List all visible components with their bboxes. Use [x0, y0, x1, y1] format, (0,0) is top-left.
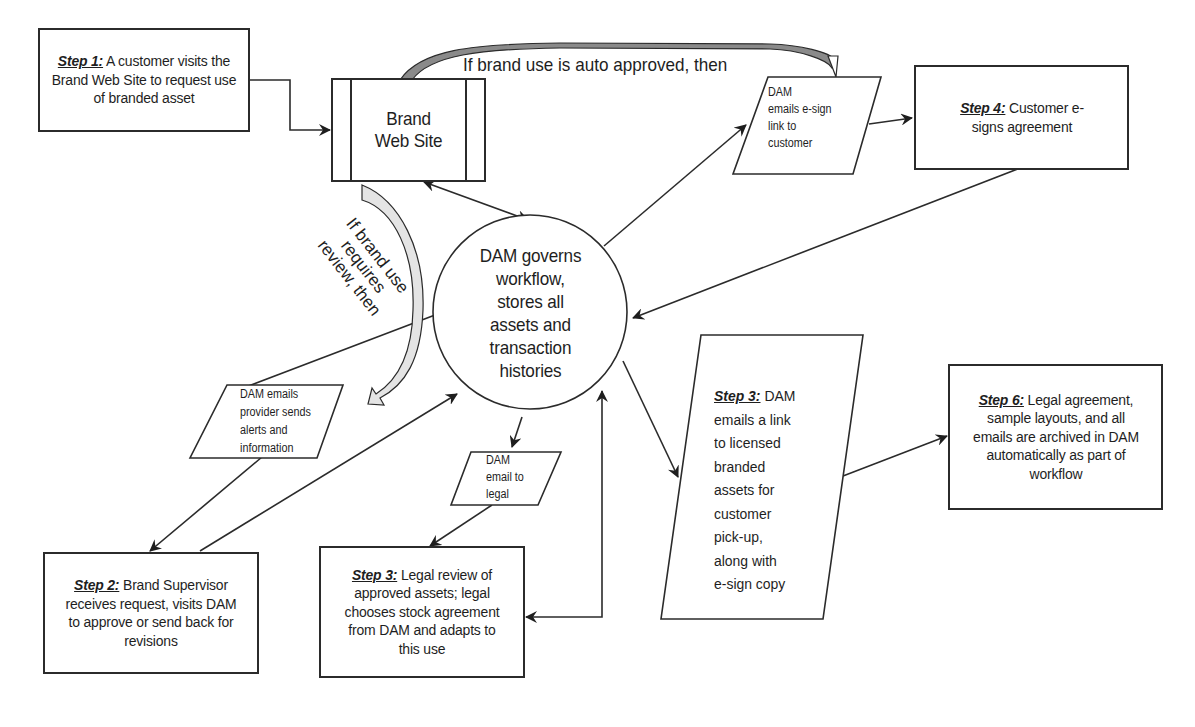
step4-box: Step 4: Customer e-signs agreement — [914, 65, 1129, 170]
dam-core-text: DAM governs workflow, stores all assets … — [450, 225, 610, 400]
website-right-bar — [465, 80, 467, 180]
dam-legal-email-text: DAM email to legal — [486, 452, 524, 503]
edge-provider-step2 — [150, 457, 262, 551]
edge-dam-legal — [512, 417, 522, 447]
dam-provider-email-text: DAM emails provider sends alerts and inf… — [240, 385, 311, 457]
edge-step3dam-step6 — [843, 436, 947, 476]
step6-box: Step 6: Legal agreement, sample layouts,… — [948, 364, 1163, 510]
edge-esign-step4 — [869, 118, 912, 124]
edge-legal-step3 — [430, 505, 492, 546]
edge-website-dam — [424, 182, 528, 220]
website-line1: Brand — [375, 108, 443, 130]
auto-approved-label: If brand use is auto approved, then — [463, 54, 727, 76]
edge-step1-website — [249, 80, 330, 130]
website-line2: Web Site — [375, 130, 443, 152]
edge-step4-dam — [633, 168, 1020, 318]
edge-dam-step3dam — [623, 361, 678, 477]
brand-website-box: Brand Web Site — [331, 78, 486, 182]
step1-box: Step 1: A customer visits the Brand Web … — [38, 28, 250, 132]
step3-dam-text: Step 3: DAM emails a link to licensed br… — [714, 384, 795, 596]
website-left-bar — [350, 80, 352, 180]
step1-step-label: Step 1: — [58, 52, 103, 69]
step3-legal-box: Step 3: Legal review of approved assets;… — [319, 546, 525, 678]
step2-box: Step 2: Brand Supervisor receives reques… — [43, 552, 259, 674]
edge-dam-esign — [604, 125, 746, 246]
dam-esign-email-text: DAM emails e-sign link to customer — [768, 84, 832, 152]
